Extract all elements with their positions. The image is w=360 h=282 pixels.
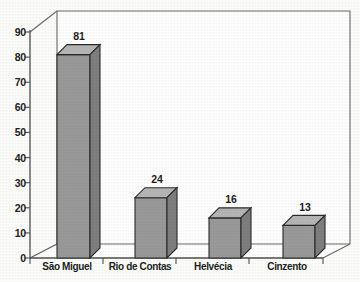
bar-rio-de-contas[interactable] <box>135 188 177 258</box>
x-tick-label-helvecia: Helvécia <box>194 262 232 272</box>
bar-value-label: 16 <box>225 194 236 205</box>
bar-front-face <box>57 55 90 258</box>
bar-sao-miguel[interactable] <box>57 45 100 258</box>
bar-value-label: 13 <box>299 202 310 213</box>
x-tick-label-sao-miguel: São Miguel <box>42 262 91 272</box>
bar-front-face <box>135 198 167 258</box>
x-tick-label-rio-de-contas: Rio de Contas <box>109 262 172 272</box>
chart-figure: 0 10 20 30 40 50 60 70 80 90 <box>0 0 360 282</box>
bar-value-label: 24 <box>151 174 162 185</box>
bar-helvecia[interactable] <box>209 208 251 258</box>
bar-front-face <box>209 218 241 258</box>
bar-side-face <box>90 45 100 258</box>
bar-value-label: 81 <box>73 31 84 42</box>
bar-side-face <box>167 188 177 258</box>
bar-front-face <box>283 225 315 258</box>
bar-series <box>0 0 360 282</box>
bar-cinzento[interactable] <box>283 215 325 258</box>
x-tick-label-cinzento: Cinzento <box>267 262 306 272</box>
